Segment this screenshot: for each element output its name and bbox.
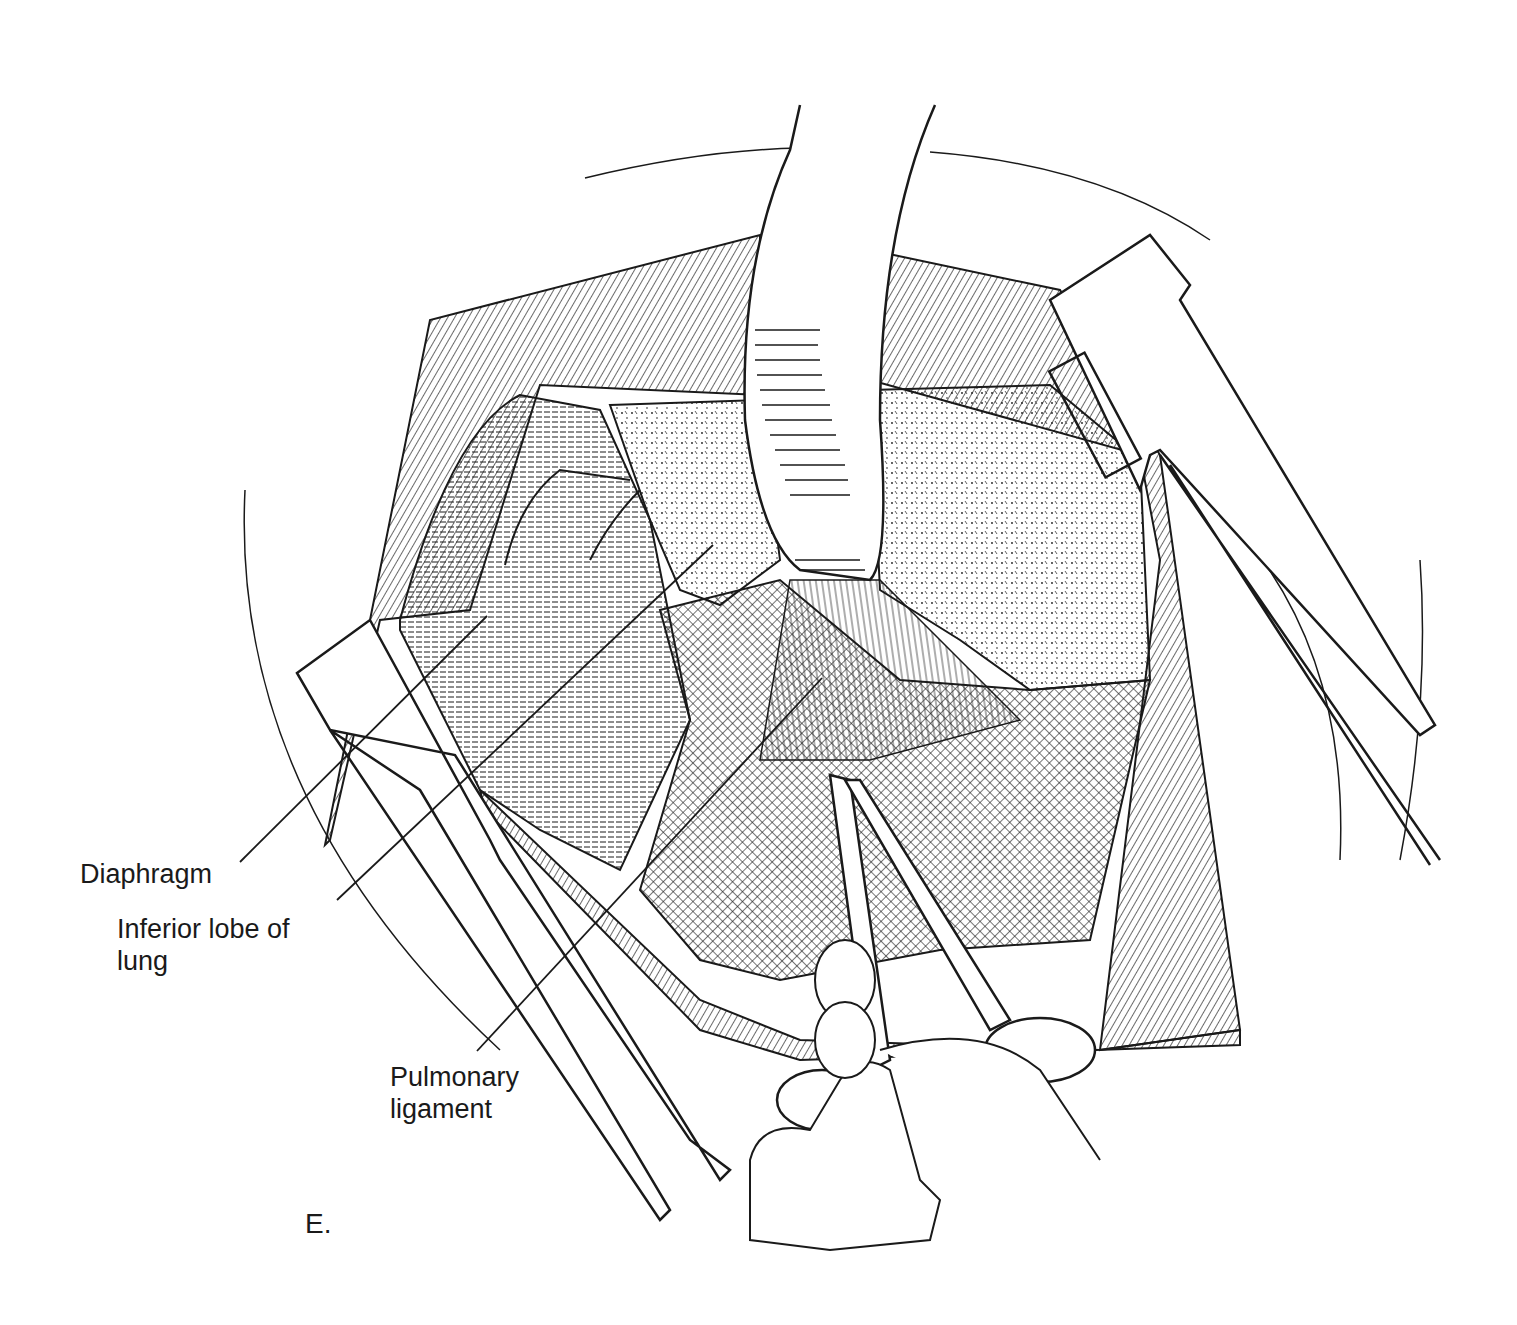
label-inferior-lobe-of-lung: Inferior lobe of lung: [117, 913, 290, 977]
label-pulmonary-ligament: Pulmonary ligament: [390, 1061, 519, 1125]
label-diaphragm: Diaphragm: [80, 858, 212, 890]
surgical-illustration: [0, 0, 1517, 1325]
panel-label: E.: [305, 1208, 331, 1240]
